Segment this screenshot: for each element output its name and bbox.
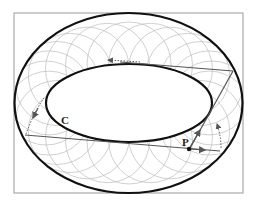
diagram-canvas: C P: [0, 0, 256, 200]
inner-caustic-ellipse: [46, 64, 212, 142]
label-c: C: [61, 114, 69, 126]
reflection-arrow-top: [108, 60, 140, 62]
label-p: P: [182, 136, 189, 148]
reflection-arrow-left: [26, 98, 44, 134]
